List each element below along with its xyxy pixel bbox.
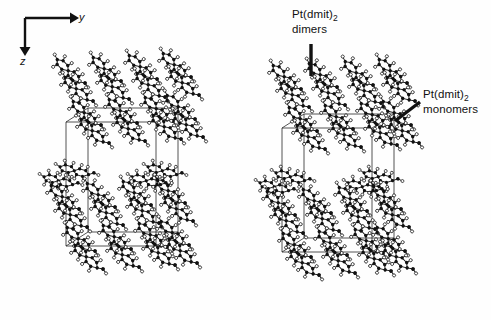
crystal-structure-right [252, 48, 430, 288]
annotation-dimers-subscript: 2 [333, 13, 338, 23]
annotation-monomers-species: Pt(dmit) [423, 88, 464, 100]
annotation-dimers: Pt(dmit)2 dimers [292, 8, 338, 36]
dimer-layer-upper-left [44, 42, 214, 156]
dimer-layer-upper-right [260, 48, 430, 162]
annotation-dimers-type: dimers [292, 23, 327, 35]
annotation-monomers: Pt(dmit)2 monomers [423, 88, 478, 116]
axis-indicator [20, 13, 80, 57]
annotation-monomers-subscript: 2 [464, 93, 469, 103]
crystal-structure-figure: Pt(dmit)2 dimers Pt(dmit)2 monomers y z [0, 0, 491, 320]
molecular-structure-canvas [0, 0, 491, 320]
annotation-dimers-species: Pt(dmit) [292, 8, 333, 20]
crystal-structure-left [36, 42, 214, 282]
axis-label-z: z [20, 55, 26, 67]
axis-label-y: y [79, 11, 85, 23]
annotation-monomers-type: monomers [423, 103, 478, 115]
